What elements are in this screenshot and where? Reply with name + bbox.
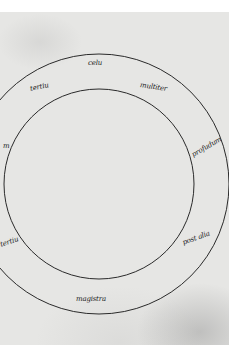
label-left: m	[3, 142, 9, 150]
outer-circle	[0, 54, 229, 314]
label-bottom: magistra	[76, 295, 106, 303]
inner-circle	[4, 89, 194, 279]
manuscript-page: celu tertiu multiter profudum post alia …	[0, 12, 229, 345]
concentric-circle-diagram	[0, 12, 229, 345]
label-top: celu	[88, 59, 102, 67]
